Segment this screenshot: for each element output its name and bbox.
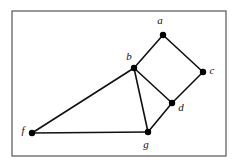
graph-node-label-f: f — [21, 124, 26, 136]
graph-node-label-b: b — [126, 50, 132, 62]
edges-layer — [32, 35, 203, 133]
graph-node-label-a: a — [157, 14, 163, 26]
graph-edge-c-d — [172, 72, 203, 103]
graph-edge-a-b — [134, 35, 163, 68]
graph-canvas: abcdfg — [0, 0, 237, 166]
nodes-layer — [29, 32, 206, 136]
graph-edge-b-g — [134, 68, 148, 132]
labels-layer: abcdfg — [21, 14, 214, 150]
graph-edge-d-g — [148, 103, 172, 132]
graph-node-g — [145, 129, 151, 135]
graph-edge-b-f — [32, 68, 134, 133]
graph-node-d — [169, 100, 175, 106]
graph-node-a — [160, 32, 166, 38]
graph-node-label-c: c — [210, 64, 215, 76]
graph-node-f — [29, 130, 35, 136]
graph-edge-f-g — [32, 132, 148, 133]
graph-node-label-g: g — [143, 138, 149, 150]
graph-node-label-d: d — [178, 101, 184, 113]
graph-node-c — [200, 69, 206, 75]
graph-edge-a-c — [163, 35, 203, 72]
graph-node-b — [131, 65, 137, 71]
figure-border — [12, 11, 226, 156]
graph-figure: abcdfg — [0, 0, 237, 166]
